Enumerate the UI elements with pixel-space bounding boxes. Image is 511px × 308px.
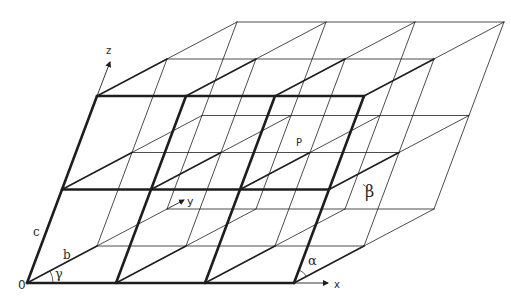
b-vector-label: b: [63, 248, 71, 262]
lattice-diagram: 0 a b c α β γ x y z P: [0, 0, 511, 308]
lattice-grid: [27, 22, 504, 283]
lattice-edge-b: [167, 22, 237, 59]
gamma-arc: [50, 271, 53, 283]
lattice-edge-b: [364, 209, 434, 246]
lattice-edge-b: [399, 116, 469, 153]
y-axis-label: y: [187, 195, 194, 208]
gamma-angle-label: γ: [55, 266, 63, 281]
lattice-point-p-label: P: [296, 137, 302, 148]
lattice-edge-b: [345, 22, 415, 59]
lattice-edge-b: [256, 22, 326, 59]
alpha-arc: [299, 270, 306, 277]
beta-angle-label: β: [365, 182, 374, 201]
x-axis-label: x: [334, 279, 340, 290]
labels-group: 0 a b c α β γ x y z P: [18, 45, 374, 292]
alpha-angle-label: α: [308, 253, 317, 268]
z-axis-label: z: [106, 45, 111, 56]
lattice-edge-b: [97, 59, 167, 96]
c-vector-label: c: [33, 225, 40, 239]
lattice-edge-b: [434, 22, 504, 59]
angle-arcs: [50, 153, 368, 284]
origin-label: 0: [18, 278, 26, 292]
